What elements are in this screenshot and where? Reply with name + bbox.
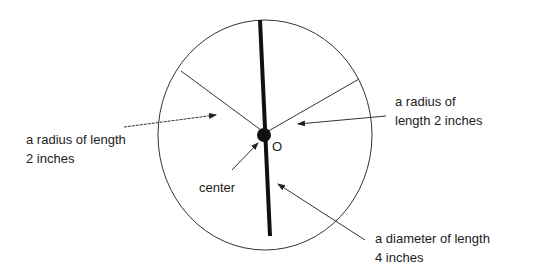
- left-radius-label-line2: 2 inches: [26, 149, 126, 168]
- right-radius-label-line2: length 2 inches: [395, 111, 482, 130]
- left-radius-label-line1: a radius of length: [26, 130, 126, 149]
- right-radius-label-line1: a radius of: [395, 92, 482, 111]
- circle-diagram: O a radius of length 2 inches a radius o…: [0, 0, 547, 276]
- center-arrow: [232, 143, 258, 170]
- center-label: center: [199, 178, 235, 197]
- center-point: [257, 128, 271, 142]
- right-radius-line: [265, 79, 359, 133]
- diameter-label-line2: 4 inches: [375, 248, 490, 267]
- diameter-line: [260, 20, 270, 236]
- center-point-label: O: [272, 137, 282, 156]
- left-radius-line: [181, 71, 265, 133]
- diameter-label: a diameter of length 4 inches: [375, 229, 490, 267]
- left-radius-arrow: [124, 115, 216, 127]
- diameter-arrow: [278, 184, 365, 240]
- right-radius-arrow: [298, 116, 386, 124]
- diameter-label-line1: a diameter of length: [375, 229, 490, 248]
- right-radius-label: a radius of length 2 inches: [395, 92, 482, 130]
- left-radius-label: a radius of length 2 inches: [26, 130, 126, 168]
